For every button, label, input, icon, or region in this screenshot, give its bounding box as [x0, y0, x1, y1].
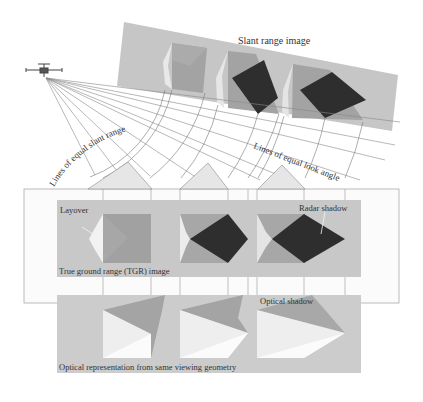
equal-look-angle-text: Lines of equal look angle	[252, 141, 341, 183]
layover-label: Layover	[60, 205, 88, 215]
optical-shadow-label: Optical shadow	[260, 296, 314, 306]
radar-shadow-label: Radar shadow	[299, 203, 348, 213]
equal-look-angle-label: Lines of equal look angle	[252, 141, 341, 183]
tgr-image-label: True ground range (TGR) image	[59, 266, 170, 276]
optical-representation-label: Optical representation from same viewing…	[59, 362, 237, 372]
aircraft-icon	[26, 64, 62, 77]
sar-geometry-diagram: Slant range image	[0, 0, 423, 402]
slant-range-image-label: Slant range image	[238, 35, 311, 46]
terrain-profile	[88, 162, 305, 189]
